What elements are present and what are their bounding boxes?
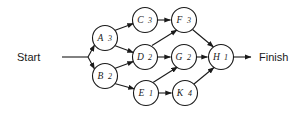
node-C-duration: 3 — [147, 16, 152, 25]
network-diagram: A 3 B 2 C 3 D 2 E 1 F 3 — [0, 0, 301, 118]
node-E-circle[interactable] — [134, 81, 159, 106]
node-C[interactable]: C 3 — [133, 8, 158, 33]
edge-K-to-H — [194, 68, 214, 85]
node-B[interactable]: B 2 — [93, 64, 118, 89]
edge-start-to-A — [88, 45, 95, 57]
node-F[interactable]: F 3 — [172, 8, 197, 33]
node-K-duration: 4 — [188, 89, 192, 98]
node-D-letter: D — [136, 52, 144, 62]
node-D[interactable]: D 2 — [133, 45, 158, 70]
node-A-duration: 3 — [107, 34, 112, 43]
start-label: Start — [17, 51, 40, 63]
node-F-circle[interactable] — [172, 8, 197, 33]
node-E-letter: E — [138, 88, 145, 98]
edge-A-to-C — [115, 24, 134, 31]
finish-label: Finish — [259, 51, 288, 63]
node-F-letter: F — [176, 15, 183, 25]
node-B-circle[interactable] — [93, 64, 118, 89]
node-A-circle[interactable] — [93, 26, 118, 51]
node-H[interactable]: H 1 — [209, 45, 234, 70]
edge-E-to-G — [153, 67, 178, 83]
node-H-letter: H — [212, 52, 221, 62]
node-C-circle[interactable] — [133, 8, 158, 33]
edge-B-to-E — [115, 84, 135, 90]
node-K[interactable]: K 4 — [173, 81, 198, 106]
edge-A-to-D — [115, 46, 134, 53]
edge-group-start — [62, 45, 95, 69]
node-K-letter: K — [176, 88, 184, 98]
node-G-letter: G — [176, 52, 183, 62]
node-A[interactable]: A 3 — [93, 26, 118, 51]
edge-start-to-B — [88, 57, 95, 69]
node-D-duration: 2 — [148, 53, 152, 62]
network-diagram-canvas: A 3 B 2 C 3 D 2 E 1 F 3 — [0, 0, 301, 118]
node-F-duration: 3 — [186, 16, 191, 25]
node-C-letter: C — [137, 15, 144, 25]
node-G[interactable]: G 2 — [172, 45, 197, 70]
node-E[interactable]: E 1 — [134, 81, 159, 106]
node-B-duration: 2 — [108, 72, 112, 81]
node-H-duration: 1 — [224, 53, 228, 62]
edge-D-to-F — [152, 30, 177, 46]
node-A-letter: A — [97, 33, 104, 43]
node-E-duration: 1 — [149, 89, 153, 98]
node-G-duration: 2 — [187, 53, 191, 62]
node-B-letter: B — [98, 71, 104, 81]
edge-B-to-D — [115, 62, 134, 69]
edge-F-to-H — [193, 30, 214, 48]
